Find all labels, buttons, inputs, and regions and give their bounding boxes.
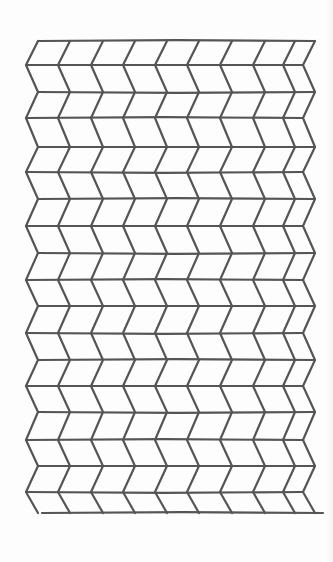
horizontal-line	[26, 172, 303, 173]
horizontal-line	[26, 279, 303, 280]
horizontal-line	[38, 412, 315, 413]
zigzag-vertical-line	[123, 41, 135, 513]
zigzag-vertical-line	[91, 41, 103, 513]
zigzag-vertical-line	[26, 41, 38, 513]
zigzag-vertical-line	[283, 41, 295, 513]
horizontal-line	[38, 198, 315, 199]
zigzag-vertical-line	[303, 41, 315, 513]
horizontal-line	[26, 333, 303, 334]
zigzag-vertical-line	[155, 41, 167, 513]
horizontal-line	[26, 439, 303, 440]
horizontal-line	[26, 117, 303, 118]
horizontal-line	[38, 40, 315, 41]
horizontal-line	[42, 512, 323, 513]
horizontal-line	[26, 492, 303, 493]
paper-sheet	[0, 0, 333, 562]
chevron-grid-drawing	[0, 0, 333, 562]
horizontal-line	[38, 92, 315, 93]
zigzag-vertical-line	[253, 41, 265, 513]
zigzag-vertical-line	[58, 41, 70, 513]
zigzag-vertical-line	[220, 41, 232, 513]
horizontal-line	[38, 253, 315, 254]
zigzag-vertical-line	[187, 41, 199, 513]
horizontal-line	[38, 359, 315, 360]
paper-edge-shadow	[325, 0, 333, 562]
